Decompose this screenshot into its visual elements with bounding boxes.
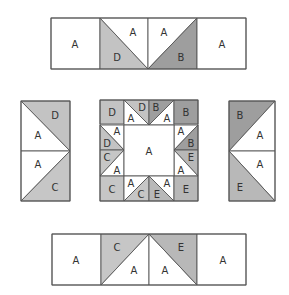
patch-label: A xyxy=(164,113,171,124)
patch-label: A xyxy=(146,146,153,157)
right-strip: BAAE xyxy=(229,101,275,201)
patch-label: A xyxy=(130,27,137,38)
patch-label: C xyxy=(104,152,111,163)
patch-label: A xyxy=(220,255,227,266)
patch-label: B xyxy=(178,52,185,63)
patch-label: D xyxy=(108,107,116,118)
patch-label: A xyxy=(178,126,185,137)
patch-label: A xyxy=(257,130,264,141)
patch-label: E xyxy=(237,182,243,193)
left-strip: DAAC xyxy=(21,101,70,201)
patch-label: B xyxy=(153,102,160,113)
patch-label: E xyxy=(154,189,160,200)
patch-label: A xyxy=(164,178,171,189)
patch-label: A xyxy=(128,113,135,124)
patch-label: A xyxy=(35,159,42,170)
patch-label: A xyxy=(73,255,80,266)
patch-label: A xyxy=(35,130,42,141)
center-block: DADBABADCAABEAACACEAE xyxy=(100,100,198,201)
patch-label: C xyxy=(114,242,121,253)
bottom-strip: ACAAEA xyxy=(52,234,246,285)
patch-label: A xyxy=(161,27,168,38)
patch-label: C xyxy=(138,189,145,200)
quilt-diagram: ADAABA DAAC DADBABADCAABEAACACEAE BAAE A… xyxy=(0,0,289,295)
patch-label: E xyxy=(188,152,194,163)
patch-label: A xyxy=(128,178,135,189)
patch-label: A xyxy=(219,39,226,50)
patch-label: A xyxy=(131,265,138,276)
patch-label: D xyxy=(103,138,111,149)
top-strip: ADAABA xyxy=(51,18,246,69)
patch-label: A xyxy=(257,159,264,170)
patch-label: E xyxy=(183,184,189,195)
patch-label: B xyxy=(183,107,190,118)
patch-label: C xyxy=(52,182,59,193)
patch-label: B xyxy=(188,138,195,149)
patch-label: D xyxy=(138,102,146,113)
patch-label: A xyxy=(72,39,79,50)
patch-label: E xyxy=(178,242,184,253)
patch-label: D xyxy=(113,52,121,63)
patch-label: D xyxy=(51,110,59,121)
patch-label: C xyxy=(109,184,116,195)
patch-label: A xyxy=(114,165,121,176)
patch-label: B xyxy=(237,110,244,121)
patch-label: A xyxy=(178,165,185,176)
patch-label: A xyxy=(114,126,121,137)
patch-label: A xyxy=(162,265,169,276)
